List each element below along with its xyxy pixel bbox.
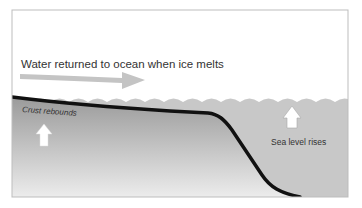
sea-level-rises-label: Sea level rises xyxy=(271,137,326,147)
ice-melt-label: Water returned to ocean when ice melts xyxy=(21,58,224,70)
rebound-diagram: Water returned to ocean when ice melts C… xyxy=(0,0,362,208)
